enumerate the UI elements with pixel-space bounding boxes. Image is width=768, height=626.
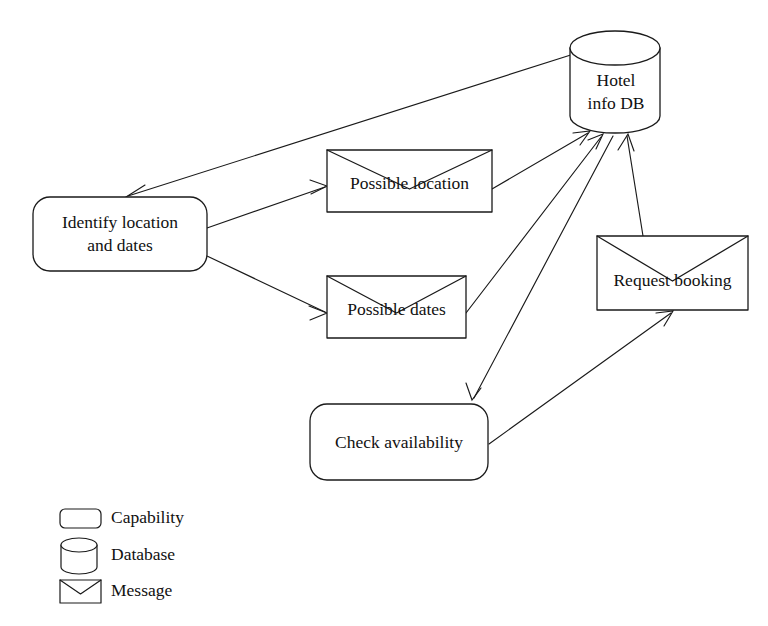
node-label-line1: Check availability: [335, 432, 463, 452]
node-hotel-info-db[interactable]: Hotel info DB: [570, 31, 660, 133]
legend: Capability Database Message: [60, 507, 184, 603]
legend-item-database: Database: [61, 538, 175, 574]
edge-request-booking-to-db: [618, 134, 643, 236]
message-icon: [60, 580, 101, 603]
capability-icon: [60, 509, 101, 528]
capability-shape: [33, 197, 207, 271]
node-label-line1: Identify location: [62, 212, 178, 232]
database-icon-top: [61, 538, 97, 552]
node-possible-location[interactable]: Possible location: [327, 150, 492, 212]
edge-check-availability-to-request-booking: [489, 311, 673, 444]
node-possible-dates[interactable]: Possible dates: [327, 276, 466, 338]
edge-identify-to-possible-location: [207, 180, 327, 228]
capability-diagram: Identify location and dates Possible loc…: [0, 0, 768, 626]
node-label-line2: info DB: [588, 93, 645, 113]
node-label-line2: and dates: [87, 235, 153, 255]
database-top-icon: [570, 31, 660, 65]
node-label-line1: Hotel: [597, 70, 636, 90]
legend-label-message: Message: [111, 580, 172, 600]
node-check-availability[interactable]: Check availability: [310, 404, 488, 480]
node-label-line1: Possible dates: [347, 299, 446, 319]
legend-item-message: Message: [60, 580, 172, 603]
edge-possible-location-to-db: [492, 131, 590, 189]
node-request-booking[interactable]: Request booking: [597, 236, 748, 310]
diagram-canvas: Identify location and dates Possible loc…: [0, 0, 768, 626]
node-label-line1: Possible location: [350, 173, 469, 193]
legend-label-capability: Capability: [111, 507, 184, 527]
legend-item-capability: Capability: [60, 507, 184, 528]
node-label-line1: Request booking: [613, 270, 731, 290]
legend-label-database: Database: [111, 544, 175, 564]
edge-identify-to-possible-dates: [207, 256, 327, 320]
node-identify-location-and-dates[interactable]: Identify location and dates: [33, 197, 207, 271]
